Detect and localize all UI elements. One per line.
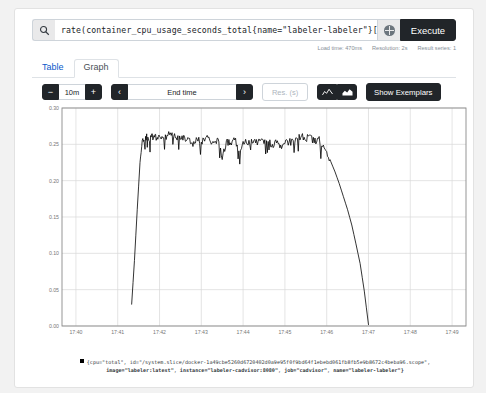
x-axis-tick-label: 17:42 (153, 329, 166, 335)
legend-color-swatch (80, 359, 84, 363)
decrease-range-button[interactable]: − (42, 84, 59, 100)
result-series-label: Result series: 1 (417, 45, 456, 51)
y-axis-tick-label: 0.15 (49, 214, 59, 220)
legend-label-image: image="labeler:latest" (106, 367, 173, 373)
x-axis-tick-label: 17:46 (320, 329, 333, 335)
tab-table[interactable]: Table (32, 59, 74, 77)
query-row: rate(container_cpu_usage_seconds_total{n… (32, 19, 456, 41)
legend-series-line2: image="labeler:latest", instance="labele… (40, 367, 470, 375)
x-axis-tick-label: 17:47 (362, 329, 375, 335)
y-axis-tick-label: 0.05 (49, 287, 59, 293)
graph-canvas[interactable]: 0.000.050.100.150.200.250.3017:4017:4117… (40, 104, 470, 347)
load-time-label: Load time: 470ms (318, 45, 362, 51)
x-axis-tick-label: 17:48 (404, 329, 417, 335)
chart-type-toggle (317, 84, 357, 100)
legend-label-instance: instance="labeler-cadvisor:8080" (180, 367, 278, 373)
result-tabs: Table Graph (32, 57, 456, 78)
x-axis-tick-label: 17:45 (278, 329, 291, 335)
query-expression-text: rate(container_cpu_usage_seconds_total{n… (61, 25, 377, 35)
range-input[interactable]: 10m (59, 84, 85, 100)
tab-graph[interactable]: Graph (74, 59, 119, 78)
y-axis-tick-label: 0.30 (49, 105, 59, 111)
x-axis-tick-label: 17:40 (69, 329, 82, 335)
x-axis-tick-label: 17:49 (446, 329, 459, 335)
stacked-area-chart-icon[interactable] (337, 84, 357, 100)
chart-svg: 0.000.050.100.150.200.250.3017:4017:4117… (40, 104, 470, 347)
metrics-explorer-glyph (384, 25, 395, 36)
show-exemplars-button[interactable]: Show Exemplars (366, 83, 441, 101)
y-axis-tick-label: 0.25 (49, 141, 59, 147)
previous-time-button[interactable]: ‹ (111, 84, 128, 100)
next-time-button[interactable]: › (236, 84, 253, 100)
x-axis-tick-label: 17:44 (237, 329, 250, 335)
y-axis-tick-label: 0.10 (49, 250, 59, 256)
resolution-input[interactable]: Res. (s) (262, 83, 308, 101)
y-axis-tick-label: 0.00 (49, 323, 59, 329)
globe-icon[interactable] (377, 19, 400, 41)
legend-label-name: name="labeler-labeler"} (333, 367, 404, 373)
query-stats: Load time: 470ms Resolution: 2s Result s… (318, 45, 456, 51)
legend-label-job: job="cadvisor" (284, 367, 327, 373)
increase-range-button[interactable]: + (85, 84, 102, 100)
chart-legend: {cpu="total", id="/system.slice/docker-1… (40, 359, 470, 375)
line-chart-icon[interactable] (317, 84, 337, 100)
end-time-stepper: ‹ End time › (111, 84, 253, 100)
end-time-input[interactable]: End time (128, 84, 236, 100)
app-background: rate(container_cpu_usage_seconds_total{n… (0, 0, 486, 393)
legend-item[interactable]: {cpu="total", id="/system.slice/docker-1… (40, 359, 470, 367)
resolution-label: Resolution: 2s (372, 45, 407, 51)
range-stepper: − 10m + (42, 84, 102, 100)
x-axis-tick-label: 17:43 (195, 329, 208, 335)
search-icon[interactable] (32, 19, 55, 41)
prometheus-query-panel: rate(container_cpu_usage_seconds_total{n… (14, 8, 474, 388)
y-axis-tick-label: 0.20 (49, 178, 59, 184)
x-axis-tick-label: 17:41 (111, 329, 124, 335)
legend-series-line1: {cpu="total", id="/system.slice/docker-1… (87, 359, 430, 365)
graph-controls: − 10m + ‹ End time › Res. (s) Show Exemp… (42, 83, 441, 101)
execute-button[interactable]: Execute (400, 19, 456, 41)
query-input[interactable]: rate(container_cpu_usage_seconds_total{n… (55, 19, 377, 41)
